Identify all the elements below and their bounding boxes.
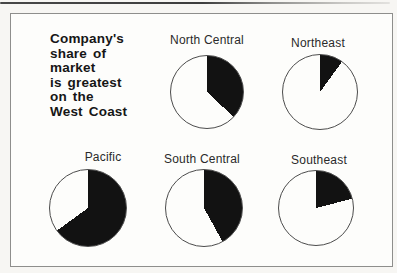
scanned-figure-page: Company's share of market is greatest on… bbox=[0, 0, 397, 273]
pie-chart-pacific bbox=[49, 169, 127, 247]
pie-label-northeast: Northeast bbox=[291, 36, 345, 50]
headline-line: on the bbox=[50, 90, 127, 105]
headline-line: West Coast bbox=[50, 105, 127, 120]
headline-line: Company's bbox=[50, 32, 127, 47]
pie-chart-northeast bbox=[282, 54, 358, 130]
pie-chart-north-central bbox=[170, 55, 244, 129]
figure-headline: Company's share of market is greatest on… bbox=[50, 32, 127, 120]
headline-line: market bbox=[50, 61, 127, 76]
pie-label-north-central: North Central bbox=[170, 33, 244, 47]
pie-label-southeast: Southeast bbox=[291, 153, 347, 167]
pie-chart-southeast bbox=[278, 170, 354, 246]
headline-line: share of bbox=[50, 47, 127, 62]
headline-line: is greatest bbox=[50, 76, 127, 91]
pie-chart-south-central bbox=[165, 169, 243, 247]
pie-label-pacific: Pacific bbox=[85, 150, 122, 164]
pie-label-south-central: South Central bbox=[164, 152, 240, 166]
page-edge-artifact bbox=[0, 2, 390, 4]
